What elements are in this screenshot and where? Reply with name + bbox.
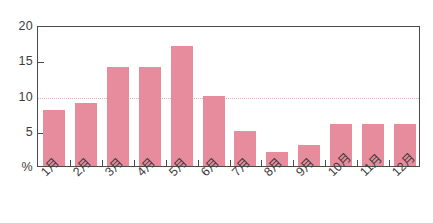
bar — [107, 67, 129, 166]
x-tick-mark — [134, 160, 135, 166]
x-tick-mark — [198, 160, 199, 166]
plot-area — [37, 26, 420, 167]
y-axis-tick-label: 15 — [3, 55, 33, 68]
x-tick-mark — [293, 160, 294, 166]
x-tick-mark — [166, 160, 167, 166]
y-axis-labels: 2015105% — [0, 0, 33, 223]
x-tick-mark — [102, 160, 103, 166]
x-tick-mark — [230, 160, 231, 166]
bar — [171, 46, 193, 166]
y-axis-tick-label: 5 — [3, 126, 33, 139]
x-tick-mark — [325, 160, 326, 166]
x-tick-mark — [357, 160, 358, 166]
x-tick-mark — [389, 160, 390, 166]
bar-chart: 2015105% 1月2月3月4月5月6月7月8月9月10月11月12月 — [0, 0, 433, 223]
x-tick-mark — [70, 160, 71, 166]
y-axis-tick-label: 10 — [3, 91, 33, 104]
bar — [139, 67, 161, 166]
bars-layer — [38, 27, 419, 166]
x-tick-mark — [261, 160, 262, 166]
y-axis-tick-label: % — [3, 161, 33, 174]
y-axis-tick-label: 20 — [3, 20, 33, 33]
x-axis-labels: 1月2月3月4月5月6月7月8月9月10月11月12月 — [37, 170, 420, 223]
